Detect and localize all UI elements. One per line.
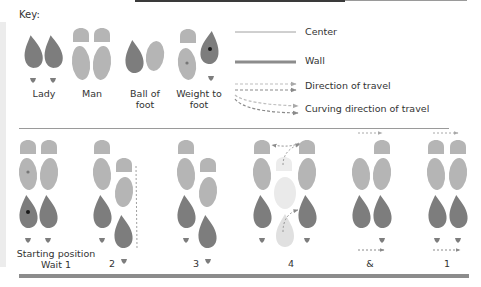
step-3-footprints xyxy=(175,140,218,264)
step-count-2: 2 xyxy=(106,258,118,269)
key-lady-icon xyxy=(22,34,64,83)
section-divider xyxy=(19,128,449,129)
step-count-start: Starting position Wait 1 xyxy=(16,248,96,270)
legend-label-curving-direction: Curving direction of travel xyxy=(305,103,429,114)
legend-direction-arrows xyxy=(235,84,296,90)
step-start-footprints xyxy=(17,140,59,243)
step-4-footprints xyxy=(251,140,317,247)
legend-label-center: Center xyxy=(305,26,337,37)
step-count-1: 1 xyxy=(441,258,453,269)
legend-label-direction: Direction of travel xyxy=(305,80,391,91)
step-1-footprints xyxy=(425,133,468,250)
key-label-ball-of-foot: Ball of foot xyxy=(125,88,165,110)
wall-line xyxy=(19,274,469,278)
key-label-man: Man xyxy=(76,88,108,99)
key-ball-of-foot-icon xyxy=(123,39,166,74)
key-label-lady: Lady xyxy=(26,88,62,99)
step-2-footprints xyxy=(91,140,137,264)
footprint-diagram xyxy=(0,0,481,287)
key-man-icon xyxy=(70,28,112,81)
step-count-4: 4 xyxy=(285,258,297,269)
legend-label-wall: Wall xyxy=(305,55,325,66)
step-and-footprints xyxy=(350,133,392,250)
step-count-3: 3 xyxy=(190,258,202,269)
legend-curving-arrows xyxy=(235,95,298,113)
key-weight-to-foot-icon xyxy=(176,29,221,81)
step-count-and: & xyxy=(364,258,376,269)
key-label-weight-to-foot: Weight to foot xyxy=(174,88,224,110)
